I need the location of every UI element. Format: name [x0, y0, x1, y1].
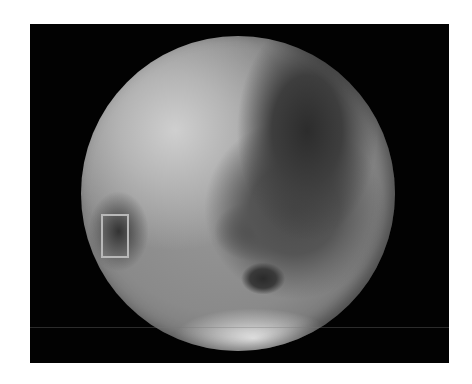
photo-frame	[30, 24, 449, 363]
planet-disk	[81, 36, 395, 351]
image-subject: Grayscale global view of a planetary bod…	[0, 0, 1, 1]
scan-line-artifact	[30, 327, 449, 328]
highlight-box	[101, 214, 129, 258]
